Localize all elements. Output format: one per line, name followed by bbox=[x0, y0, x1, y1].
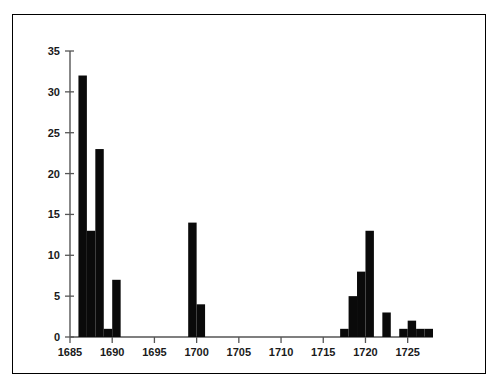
x-tick-label: 1685 bbox=[58, 346, 82, 358]
y-tick-label: 30 bbox=[48, 86, 60, 98]
histogram-bar bbox=[357, 272, 365, 337]
y-tick-label: 35 bbox=[48, 45, 60, 57]
y-tick-label: 5 bbox=[54, 290, 60, 302]
y-tick-label: 25 bbox=[48, 127, 60, 139]
x-tick-label: 1705 bbox=[227, 346, 251, 358]
bars-group bbox=[78, 76, 433, 337]
x-tick-label: 1700 bbox=[184, 346, 208, 358]
histogram-bar bbox=[416, 329, 424, 337]
chart-outer-frame: 05101520253035 1685169016951700170517101… bbox=[12, 14, 486, 374]
histogram-bar bbox=[399, 329, 407, 337]
y-tick-label: 20 bbox=[48, 168, 60, 180]
x-tick-label: 1695 bbox=[142, 346, 166, 358]
histogram-bar bbox=[340, 329, 348, 337]
y-tick-label: 0 bbox=[54, 331, 60, 343]
x-tick-label: 1715 bbox=[311, 346, 335, 358]
x-ticks-group: 168516901695170017051710171517201725 bbox=[58, 337, 420, 358]
x-tick-label: 1725 bbox=[395, 346, 419, 358]
histogram-bar bbox=[104, 329, 112, 337]
histogram-bar bbox=[188, 223, 196, 337]
histogram-bar bbox=[349, 296, 357, 337]
histogram-bar bbox=[112, 280, 120, 337]
histogram-bar bbox=[425, 329, 433, 337]
histogram-chart: 05101520253035 1685169016951700170517101… bbox=[13, 15, 484, 372]
y-tick-label: 15 bbox=[48, 208, 60, 220]
histogram-bar bbox=[382, 312, 390, 337]
histogram-bar bbox=[87, 231, 95, 337]
y-tick-label: 10 bbox=[48, 249, 60, 261]
histogram-bar bbox=[365, 231, 373, 337]
histogram-bar bbox=[95, 149, 103, 337]
x-tick-label: 1690 bbox=[100, 346, 124, 358]
figure-canvas: 05101520253035 1685169016951700170517101… bbox=[0, 0, 501, 390]
histogram-bar bbox=[197, 304, 205, 337]
x-tick-label: 1720 bbox=[353, 346, 377, 358]
histogram-bar bbox=[78, 76, 86, 337]
histogram-bar bbox=[408, 321, 416, 337]
axes-group bbox=[70, 51, 433, 337]
x-tick-label: 1710 bbox=[269, 346, 293, 358]
